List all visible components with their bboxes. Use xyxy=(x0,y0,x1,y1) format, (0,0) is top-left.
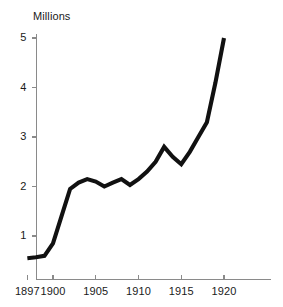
y-axis-ticks xyxy=(32,38,37,236)
y-tick-label-4: 4 xyxy=(20,81,26,93)
y-tick-label-1: 1 xyxy=(20,229,26,241)
x-tick-label-1897: 1897 xyxy=(15,285,40,297)
line-chart: Millions 12345 189719001905191019151920 xyxy=(0,0,283,307)
x-axis: 189719001905191019151920 xyxy=(15,275,271,297)
x-tick-label-1920: 1920 xyxy=(212,285,237,297)
x-tick-label-1910: 1910 xyxy=(126,285,151,297)
x-tick-label-1905: 1905 xyxy=(83,285,108,297)
y-tick-label-2: 2 xyxy=(20,180,26,192)
chart-plot-area: 12345 189719001905191019151920 xyxy=(0,0,283,307)
x-axis-tick-labels: 189719001905191019151920 xyxy=(15,285,237,297)
x-tick-label-1900: 1900 xyxy=(41,285,66,297)
x-tick-label-1915: 1915 xyxy=(169,285,194,297)
y-axis: 12345 xyxy=(20,31,36,280)
y-tick-label-5: 5 xyxy=(20,31,26,43)
data-series-line xyxy=(27,38,224,258)
y-axis-tick-labels: 12345 xyxy=(20,31,26,241)
y-tick-label-3: 3 xyxy=(20,130,26,142)
x-axis-ticks xyxy=(27,275,224,280)
